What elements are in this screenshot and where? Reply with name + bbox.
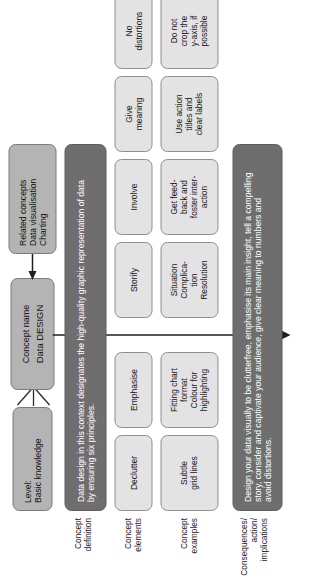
related-concepts-box: Related concepts Data visualisation Char… xyxy=(8,144,56,254)
related-concepts-label: Related concepts xyxy=(17,152,27,246)
element-box-give-meaning: Give meaning xyxy=(114,76,152,152)
element-box-declutter: Declutter xyxy=(114,435,152,511)
row-label-elements-line1: Concept xyxy=(122,518,132,580)
level-connector-rays xyxy=(14,387,52,407)
example-box-chart-format-colour: Fitting chart format Colour for highligh… xyxy=(160,352,218,428)
concept-definition-line2: by ensuring six principles. xyxy=(85,153,95,502)
level-label: Level: xyxy=(22,415,32,503)
example-box-feedback-interaction: Get feed- back and foster inter- action xyxy=(160,159,218,235)
consequences-line2: story, consider and captivate your audie… xyxy=(252,153,262,502)
element-box-involve: Involve xyxy=(114,159,152,235)
level-box: Level: Basic knowledge xyxy=(12,407,52,511)
consequences-line3: avoid distortions. xyxy=(262,153,272,502)
concept-definition-bar: Data design in this context designates t… xyxy=(64,144,106,511)
row-label-definition: Concept definition xyxy=(72,518,92,580)
concept-name-box: Concept name Data DESIGN xyxy=(10,278,54,390)
row-label-examples-line2: examples xyxy=(188,518,198,580)
row-label-consequences-line3: implications xyxy=(258,518,268,580)
row-label-elements-line2: elements xyxy=(132,518,142,580)
consequences-bar: Design your data visually to be clutterf… xyxy=(232,144,282,511)
example-box-action-titles: Use action titles and clear labels xyxy=(160,76,218,152)
row-label-consequences-line2: action/ xyxy=(248,518,258,580)
concept-name-label: Concept name xyxy=(20,286,31,382)
concept-definition-line1: Data design in this context designates t… xyxy=(75,153,85,502)
element-box-no-distortions: No distortions xyxy=(114,0,152,69)
concept-name-value: Data DESIGN xyxy=(33,286,44,382)
related-to-concept-arrow xyxy=(24,250,40,280)
row-label-examples-line1: Concept xyxy=(178,518,188,580)
element-box-storify: Storify xyxy=(114,242,152,318)
example-box-do-not-crop-y-axis: Do not crop the y-axis, if possible xyxy=(160,0,218,69)
row-label-consequences-line1: Consequences/ xyxy=(238,518,248,580)
row-label-definition-line2: definition xyxy=(82,518,92,580)
consequences-line1: Design your data visually to be clutterf… xyxy=(242,153,252,502)
related-concept-item-2: Charting xyxy=(37,152,47,246)
row-label-consequences: Consequences/ action/ implications xyxy=(238,518,268,580)
example-box-situation-complication-resolution: Situation Complica- tion Resolution xyxy=(160,242,218,318)
example-box-subtle-grid-lines: Subtle grid lines xyxy=(160,435,218,511)
related-concept-item-1: Data visualisation xyxy=(27,152,37,246)
row-label-elements: Concept elements xyxy=(122,518,142,580)
row-label-examples: Concept examples xyxy=(178,518,198,580)
level-value: Basic knowledge xyxy=(32,415,42,503)
row-label-definition-line1: Concept xyxy=(72,518,82,580)
element-box-emphasise: Emphasise xyxy=(114,352,152,428)
